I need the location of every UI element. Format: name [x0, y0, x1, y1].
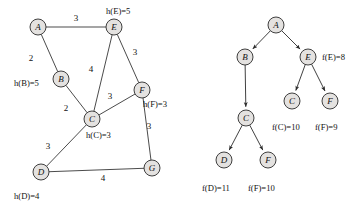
tree-cost-group: f(E)=8f(C)=10f(F)=9f(D)=11f(F)=10 — [202, 52, 345, 193]
cost-label-t-D: f(D)=11 — [202, 183, 230, 193]
tree-edge-t-C1-t-F2 — [250, 125, 263, 150]
graph-edge-a-b — [41, 34, 58, 71]
tree-node-label-t-A: A — [272, 20, 279, 30]
edge-weight-e-c: 4 — [89, 64, 94, 74]
tree-node-label-t-E: E — [304, 52, 311, 62]
tree-edge-t-A-t-B — [253, 31, 271, 49]
edge-weight-a-b: 2 — [29, 53, 34, 63]
graph-node-label-b: B — [58, 74, 64, 84]
cost-label-t-C2: f(C)=10 — [272, 122, 300, 132]
edge-weight-f-g: 3 — [147, 121, 152, 131]
figure-container: ABCDEFG ABECCFDF 322433334 h(B)=5h(E)=5h… — [0, 0, 359, 207]
graph-node-group: ABCDEFG — [30, 19, 160, 180]
edge-weight-d-g: 4 — [101, 173, 106, 183]
graph-node-label-d: D — [37, 167, 45, 177]
tree-node-label-t-F1: F — [326, 96, 333, 106]
cost-label-t-F2: f(F)=10 — [248, 183, 275, 193]
graph-node-label-c: C — [89, 114, 96, 124]
figure-svg: ABCDEFG ABECCFDF 322433334 h(B)=5h(E)=5h… — [0, 0, 359, 207]
heuristic-label-c: h(C)=3 — [86, 130, 111, 140]
graph-weight-group: 322433334 — [29, 13, 152, 183]
edge-weight-a-e: 3 — [74, 13, 79, 23]
tree-edge-t-A-t-E — [282, 31, 300, 49]
graph-edge-c-d — [47, 125, 87, 166]
graph-node-label-e: E — [110, 22, 117, 32]
tree-edge-t-B-t-C1 — [245, 65, 246, 107]
tree-node-label-t-C2: C — [289, 96, 296, 106]
graph-node-label-f: F — [138, 85, 145, 95]
tree-edge-t-E-t-F1 — [312, 64, 325, 91]
heuristic-label-b: h(B)=5 — [14, 78, 39, 88]
cost-label-t-F1: f(F)=9 — [315, 122, 338, 132]
graph-node-label-g: G — [149, 163, 156, 173]
edge-weight-e-f: 3 — [133, 47, 138, 57]
tree-node-label-t-C1: C — [243, 113, 250, 123]
graph-edge-b-c — [66, 85, 87, 112]
edge-weight-c-d: 3 — [46, 141, 51, 151]
edge-weight-c-f: 3 — [108, 91, 113, 101]
tree-edge-group — [229, 31, 325, 150]
tree-edge-t-C1-t-D — [229, 125, 242, 150]
tree-edge-t-E-t-C2 — [296, 65, 305, 91]
tree-node-label-t-B: B — [242, 52, 248, 62]
cost-label-t-E: f(E)=8 — [322, 52, 345, 62]
graph-edge-c-f — [99, 94, 135, 115]
heuristic-label-e: h(E)=5 — [106, 6, 130, 16]
heuristic-label-d: h(D)=4 — [14, 191, 40, 201]
graph-edge-d-g — [49, 168, 144, 171]
graph-node-label-a: A — [34, 22, 41, 32]
graph-edge-e-f — [117, 34, 139, 82]
heuristic-label-f: h(F)=3 — [143, 99, 167, 109]
tree-node-label-t-D: D — [220, 155, 228, 165]
tree-node-group: ABECCFDF — [216, 17, 338, 168]
edge-weight-b-c: 2 — [64, 103, 69, 113]
tree-node-label-t-F2: F — [264, 155, 271, 165]
